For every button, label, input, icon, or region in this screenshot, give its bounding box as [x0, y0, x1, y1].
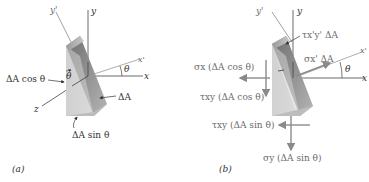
y-prime-axis — [272, 12, 292, 42]
axis-label-y-prime: y' — [50, 5, 58, 15]
pointer-area-sin — [73, 117, 77, 128]
axis-label-x-prime: x' — [360, 46, 367, 56]
pointer-area-cos — [48, 80, 64, 82]
angle-theta-label: θ — [345, 64, 350, 74]
caption-b: (b) — [219, 164, 232, 174]
label-area-cos: ΔA cos θ — [6, 74, 45, 84]
label-tau-xprime-yprime: τx'y' ΔA — [302, 30, 338, 40]
label-tau-xy-cos: τxy (ΔA cos θ) — [200, 92, 264, 102]
label-sigma-xprime: σx' ΔA — [304, 54, 334, 64]
label-tau-xy-sin: τxy (ΔA sin θ) — [212, 120, 274, 130]
label-sigma-y: σy (ΔA sin θ) — [263, 153, 322, 163]
theta-arc — [120, 66, 122, 76]
axis-label-x-prime: x' — [138, 55, 145, 65]
label-sigma-x: σx (ΔA cos θ) — [194, 62, 254, 72]
axis-label-x: x — [362, 73, 367, 83]
axis-label-y: y — [297, 6, 302, 16]
axis-label-y: y — [91, 6, 96, 16]
face-theta-label: θ — [66, 71, 71, 81]
theta-arc — [340, 62, 342, 78]
caption-a: (a) — [12, 164, 24, 174]
axis-label-z: z — [34, 104, 39, 114]
angle-theta-label: θ — [124, 64, 129, 74]
arrow-sigma-xprime — [296, 63, 330, 76]
label-area: ΔA — [118, 92, 131, 102]
label-area-sin: ΔA sin θ — [72, 130, 109, 140]
axis-label-y-prime: y' — [256, 6, 264, 16]
x-prime-axis — [88, 59, 140, 76]
axis-label-x: x — [144, 71, 149, 81]
